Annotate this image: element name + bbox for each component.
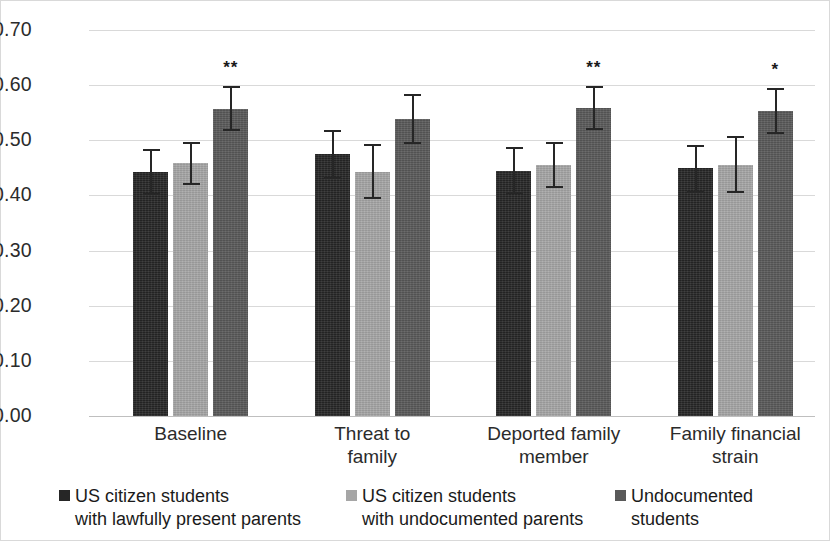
error-bar-cap-bottom xyxy=(767,132,784,134)
error-bar-cap-top xyxy=(546,142,563,144)
error-bar-stem xyxy=(372,144,374,199)
error-bar-stem xyxy=(695,145,697,193)
error-bar-cap-bottom xyxy=(727,191,744,193)
legend-label: US citizen students with lawfully presen… xyxy=(75,485,301,531)
x-axis-labels: BaselineThreat tofamilyDeported familyme… xyxy=(89,422,815,482)
error-bar-stem xyxy=(412,94,414,144)
legend-item[interactable]: Undocumented students xyxy=(615,485,753,531)
error-bar-cap-bottom xyxy=(687,191,704,193)
error-bar-cap-top xyxy=(404,94,421,96)
y-axis-tick-label: 0.00 xyxy=(0,406,63,426)
x-axis-category-line: Family financial xyxy=(625,422,832,445)
error-bar-stem xyxy=(190,142,192,185)
error-bar-cap-top xyxy=(223,86,240,88)
x-axis-line xyxy=(89,416,815,417)
significance-marker: * xyxy=(771,61,779,78)
bar xyxy=(496,171,531,416)
error-bar-stem xyxy=(332,130,334,179)
bar xyxy=(718,165,753,416)
error-bar-stem xyxy=(150,149,152,195)
error-bar-cap-bottom xyxy=(546,186,563,188)
error-bar-stem xyxy=(513,147,515,193)
legend-square-marker-icon xyxy=(615,490,626,501)
plot-area: 0.700.600.500.400.300.200.100.00***** xyxy=(89,30,815,416)
y-axis-tick-label: 0.40 xyxy=(0,185,63,205)
error-bar-cap-bottom xyxy=(223,129,240,131)
error-bar-cap-top xyxy=(687,145,704,147)
legend-item[interactable]: US citizen students with lawfully presen… xyxy=(59,485,301,531)
error-bar-cap-top xyxy=(364,144,381,146)
y-axis-tick-label: 0.50 xyxy=(0,130,63,150)
error-bar-stem xyxy=(735,136,737,193)
error-bar-cap-top xyxy=(727,136,744,138)
x-axis-category-line: strain xyxy=(625,445,832,468)
error-bar-cap-top xyxy=(324,130,341,132)
error-bar-stem xyxy=(775,88,777,133)
error-bar-cap-top xyxy=(143,149,160,151)
error-bar-stem xyxy=(230,86,232,131)
bar xyxy=(213,109,248,416)
bar xyxy=(173,163,208,416)
error-bar-cap-bottom xyxy=(586,128,603,130)
error-bar-stem xyxy=(593,86,595,130)
bar xyxy=(678,168,713,416)
y-axis-tick-label: 0.10 xyxy=(0,351,63,371)
bar xyxy=(758,111,793,416)
legend-square-marker-icon xyxy=(346,490,357,501)
error-bar-cap-bottom xyxy=(364,197,381,199)
legend-item[interactable]: US citizen students with undocumented pa… xyxy=(346,485,583,531)
bar xyxy=(536,165,571,416)
significance-marker: ** xyxy=(586,59,601,76)
gridline xyxy=(89,30,815,31)
error-bar-cap-bottom xyxy=(324,177,341,179)
legend-label: Undocumented students xyxy=(631,485,753,531)
chart-container: 0.700.600.500.400.300.200.100.00***** Ba… xyxy=(0,0,830,541)
gridline xyxy=(89,85,815,86)
y-axis-tick-label: 0.20 xyxy=(0,296,63,316)
bar xyxy=(315,154,350,416)
error-bar-cap-bottom xyxy=(404,142,421,144)
y-axis-tick-label: 0.60 xyxy=(0,75,63,95)
legend-label: US citizen students with undocumented pa… xyxy=(362,485,583,531)
error-bar-cap-top xyxy=(767,88,784,90)
error-bar-cap-bottom xyxy=(143,193,160,195)
y-axis-tick-label: 0.70 xyxy=(0,20,63,40)
bar xyxy=(133,172,168,416)
x-axis-category-label: Family financialstrain xyxy=(625,422,832,468)
bar xyxy=(395,119,430,416)
significance-marker: ** xyxy=(223,59,238,76)
bar xyxy=(576,108,611,416)
y-axis-tick-label: 0.30 xyxy=(0,241,63,261)
chart-legend: US citizen students with lawfully presen… xyxy=(1,485,831,537)
error-bar-cap-top xyxy=(506,147,523,149)
error-bar-cap-bottom xyxy=(183,183,200,185)
error-bar-cap-top xyxy=(183,142,200,144)
error-bar-cap-top xyxy=(586,86,603,88)
bar xyxy=(355,172,390,416)
error-bar-cap-bottom xyxy=(506,192,523,194)
legend-square-marker-icon xyxy=(59,490,70,501)
error-bar-stem xyxy=(553,142,555,187)
